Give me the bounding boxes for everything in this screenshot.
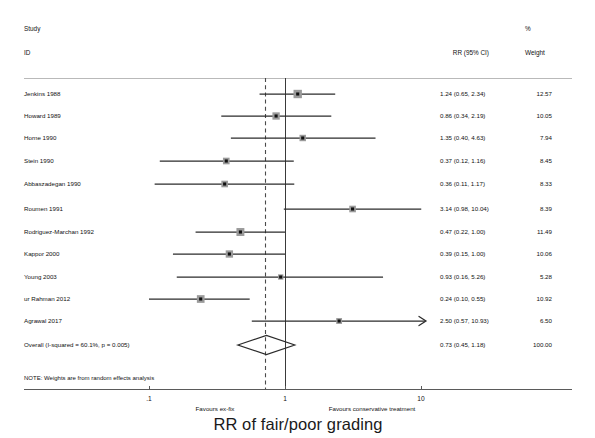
study-ci-graphic-9 (149, 295, 250, 303)
study-ci-graphic-7 (173, 250, 285, 257)
x-tick-0 (149, 386, 150, 390)
x-tick-label-2: 10 (417, 396, 424, 403)
axis-label-right: Favours conservative treatment (329, 406, 416, 412)
x-tick-label-0: .1 (146, 396, 152, 403)
study-ci-graphic-0 (260, 90, 336, 98)
weights-note: NOTE: Weights are from random effects an… (24, 375, 154, 381)
x-axis-line (24, 389, 572, 390)
axis-label-left: Favours ex-fix (196, 406, 235, 412)
forest-plot-canvas: Study ID RR (95% CI) % Weight Jenkins 19… (0, 0, 595, 438)
study-ci-graphic-5 (284, 206, 421, 213)
study-ci-graphic-4 (155, 181, 295, 188)
x-tick-1 (285, 386, 286, 390)
study-ci-graphic-10 (252, 316, 426, 325)
study-ci-graphic-8 (177, 274, 383, 279)
x-tick-2 (421, 386, 422, 390)
study-ci-graphic-6 (196, 228, 285, 236)
study-ci-graphic-1 (221, 112, 331, 119)
overall-diamond (238, 336, 295, 355)
study-ci-graphic-3 (160, 158, 294, 165)
study-ci-graphic-2 (231, 135, 376, 141)
forest-graphic-layer (0, 0, 595, 438)
figure-title: RR of fair/poor grading (213, 415, 382, 434)
x-tick-label-1: 1 (283, 396, 287, 403)
